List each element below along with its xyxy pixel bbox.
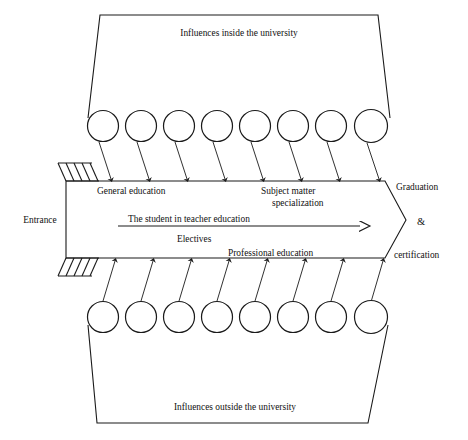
general-education-label: General education — [97, 186, 166, 196]
diagram-text-layer: Influences inside the university Entranc… — [0, 0, 468, 440]
diagram-root: Influences inside the university Entranc… — [0, 0, 468, 440]
bottom-influence-title: Influences outside the university — [174, 402, 296, 412]
top-influence-title: Influences inside the university — [180, 28, 298, 38]
graduation-label: Graduation — [396, 182, 438, 192]
student-in-teacher-education-label: The student in teacher education — [128, 214, 250, 224]
subject-matter-label-line1: Subject matter — [261, 186, 316, 196]
electives-label: Electives — [177, 234, 212, 244]
professional-education-label: Professional education — [228, 248, 313, 258]
entrance-label: Entrance — [23, 215, 56, 225]
ampersand-label: & — [417, 216, 425, 227]
subject-matter-label-line2: specialization — [272, 198, 324, 208]
certification-label: certification — [394, 250, 440, 260]
